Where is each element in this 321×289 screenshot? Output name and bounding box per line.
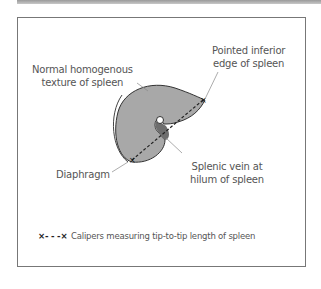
label-pointed-edge: Pointed inferior edge of spleen	[212, 45, 285, 70]
legend-text: Calipers measuring tip-to-tip length of …	[71, 230, 255, 243]
caliper-mark-start: ×	[129, 156, 136, 165]
hilum-ring	[157, 117, 164, 124]
label-diaphragm: Diaphragm	[56, 169, 110, 182]
label-texture: Normal homogenous texture of spleen	[32, 64, 133, 89]
leader-pointed-edge	[205, 72, 218, 99]
label-splenic-vein: Splenic vein at hilum of spleen	[190, 161, 264, 186]
leader-splenic-vein	[166, 138, 182, 153]
legend-symbol: ×- - -×	[38, 230, 67, 243]
spleen-illustration: × ×	[0, 0, 321, 289]
leader-diaphragm	[112, 162, 128, 172]
